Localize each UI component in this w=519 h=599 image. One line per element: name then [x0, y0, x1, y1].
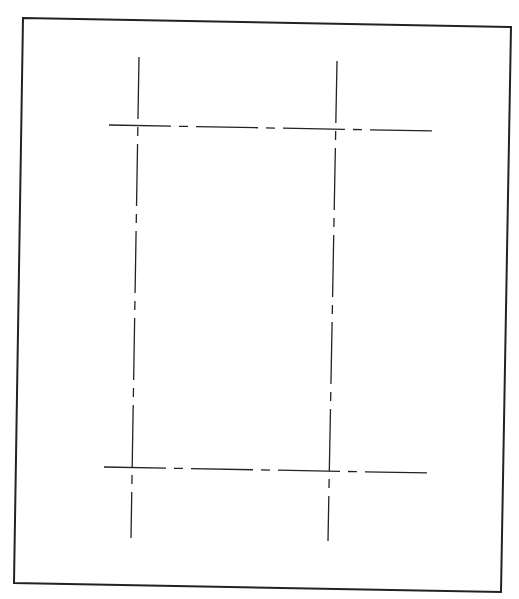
drawing-canvas	[0, 0, 519, 599]
technical-drawing	[0, 0, 519, 599]
centerline-bottom-horizontal	[104, 467, 429, 473]
drawing-frame	[14, 18, 511, 592]
centerline-top-horizontal	[109, 125, 435, 131]
centerline-right-vertical	[328, 61, 337, 541]
centerline-left-vertical	[131, 57, 139, 538]
